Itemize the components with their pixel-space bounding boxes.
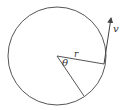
angle-label: θ <box>62 58 68 68</box>
velocity-label: v <box>113 24 119 34</box>
circle-diagram <box>0 0 126 110</box>
radius-label: r <box>74 50 78 59</box>
velocity-vector-arrow <box>104 18 111 64</box>
